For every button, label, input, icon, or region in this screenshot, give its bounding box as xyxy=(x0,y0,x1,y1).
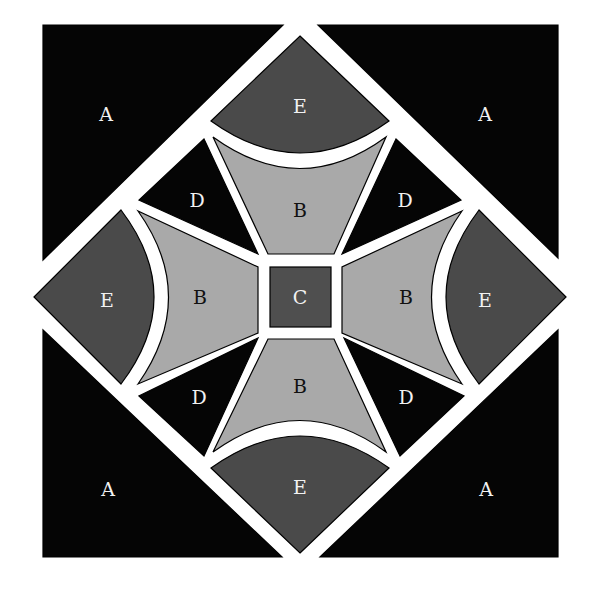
label-d: D xyxy=(398,386,413,408)
label-b: B xyxy=(399,286,413,308)
label-b: B xyxy=(293,199,307,221)
label-c: C xyxy=(293,286,308,308)
label-e: E xyxy=(478,289,492,311)
label-e: E xyxy=(293,95,307,117)
label-e: E xyxy=(293,476,307,498)
label-b: B xyxy=(293,375,307,397)
label-d: D xyxy=(397,189,412,211)
label-e: E xyxy=(100,289,114,311)
label-a: A xyxy=(100,478,115,500)
label-a: A xyxy=(477,103,492,125)
label-d: D xyxy=(191,386,206,408)
label-a: A xyxy=(98,103,113,125)
label-a: A xyxy=(478,478,493,500)
piece-c-center: C xyxy=(270,267,331,327)
quilt-block-diagram: A A A A E E E E B B B B xyxy=(0,0,589,590)
label-b: B xyxy=(193,286,207,308)
label-d: D xyxy=(189,189,204,211)
